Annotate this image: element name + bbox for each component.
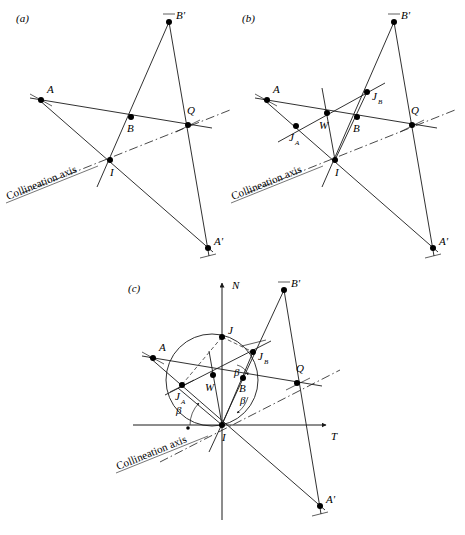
panel-a-label-A: A	[46, 83, 54, 95]
panel-c-label-beta-3: β	[239, 394, 246, 406]
svg-text:A: A	[294, 139, 300, 147]
panel-a-label-I: I	[109, 166, 115, 178]
panel-c-point-Q	[294, 380, 300, 386]
panel-c-collineation-axis-label: Collineation axis	[114, 433, 188, 472]
panel-c-label-Bprime: B'	[291, 277, 301, 289]
panel-c-label-Aprime: A'	[325, 493, 336, 505]
panel-c-point-Aprime	[317, 503, 323, 509]
panel-b-label-Bprime: B'	[401, 9, 411, 21]
panel-a-label-Q: Q	[187, 104, 195, 116]
panel-c-label-Q: Q	[296, 362, 304, 374]
panel-c-line-I-JA	[178, 388, 222, 425]
panel-c-point-J	[219, 334, 225, 340]
panel-b-point-Aprime	[430, 245, 436, 251]
panel-c-label-J: J	[228, 324, 234, 336]
panel-c-label-A: A	[158, 341, 166, 353]
panel-b-point-JA	[293, 123, 299, 129]
panel-c-label-beta-1: β	[175, 404, 182, 416]
panel-b-line-I-Bprime	[322, 22, 394, 187]
panel-a: (a) A B B' Q I A'	[4, 9, 230, 258]
panel-c-label-I: I	[221, 431, 227, 443]
panel-b-point-A	[264, 97, 270, 103]
panel-c: (c) N T	[114, 277, 340, 520]
panel-b-label: (b)	[242, 12, 255, 25]
panel-a-point-B	[128, 114, 134, 120]
panel-a-label: (a)	[16, 12, 29, 25]
panel-c-point-W	[210, 372, 216, 378]
panel-a-label-Aprime: A'	[213, 235, 224, 247]
panel-b-line-Bprime-Aprime	[394, 22, 434, 256]
panel-b-point-W	[324, 110, 330, 116]
figure-root: (a) A B B' Q I A'	[0, 0, 465, 535]
panel-c-axis-N-label: N	[231, 279, 240, 291]
panel-a-label-B: B	[127, 122, 134, 134]
panel-a-collineation-axis-label: Collineation axis	[4, 163, 78, 202]
panel-a-line-I-Bprime	[97, 22, 169, 187]
panel-b-point-I	[332, 157, 338, 163]
panel-a-tick-Aprime	[200, 254, 216, 258]
panel-b-label-W: W	[319, 119, 329, 131]
panel-c-point-Bprime	[281, 287, 287, 293]
panel-b-label-I: I	[334, 166, 340, 178]
panel-c-point-JA	[179, 382, 185, 388]
panel-c-label-W: W	[205, 381, 215, 393]
svg-text:B: B	[378, 98, 383, 106]
panel-c-point-A	[150, 355, 156, 361]
panel-c-beta-arc-1	[190, 403, 199, 425]
panel-c-point-I	[219, 422, 225, 428]
panel-b-label-Q: Q	[411, 104, 419, 116]
panel-c-label-beta-2: β	[233, 366, 240, 378]
panel-a-label-Bprime: B'	[176, 9, 186, 21]
panel-b-point-JB	[364, 89, 370, 95]
panel-c-label: (c)	[128, 282, 141, 295]
panel-c-label-JB: J B	[258, 350, 269, 366]
panel-b-point-B	[354, 114, 360, 120]
panel-c-label-B: B	[239, 382, 246, 394]
panel-b-point-Q	[409, 122, 415, 128]
panel-b-label-JB: J B	[372, 90, 383, 106]
panel-b-collineation-axis-label: Collineation axis	[229, 163, 303, 202]
panel-c-axis-T-label: T	[331, 430, 338, 442]
panel-c-point-JB	[250, 349, 256, 355]
panel-c-point-beta-ref	[186, 426, 190, 430]
panel-c-tick-Aprime	[312, 512, 328, 516]
svg-text:B: B	[264, 358, 269, 366]
geometry-figure-canvas: (a) A B B' Q I A'	[0, 0, 465, 535]
panel-a-point-Q	[185, 122, 191, 128]
panel-b-label-B: B	[353, 122, 360, 134]
panel-a-point-Aprime	[205, 245, 211, 251]
panel-a-line-Bprime-Aprime	[169, 22, 209, 256]
panel-b-label-Aprime: A'	[438, 235, 449, 247]
panel-c-point-B	[240, 375, 246, 381]
panel-b-point-Bprime	[391, 19, 397, 25]
panel-c-line-Bprime-Aprime	[284, 290, 321, 514]
panel-a-point-A	[38, 97, 44, 103]
panel-c-line-J-JA	[180, 337, 222, 387]
panel-c-line-I-Bprime	[209, 290, 284, 452]
panel-b-tick-Aprime	[425, 254, 441, 258]
panel-b: (b) A J A	[229, 9, 455, 258]
panel-b-label-A: A	[272, 83, 280, 95]
panel-c-line-I-JB	[222, 352, 253, 425]
panel-a-point-Bprime	[166, 19, 172, 25]
panel-a-point-I	[107, 157, 113, 163]
